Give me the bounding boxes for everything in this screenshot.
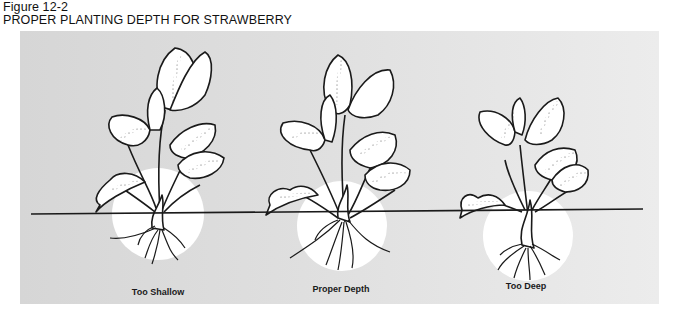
- caption-too-shallow: Too Shallow: [132, 287, 184, 297]
- caption-proper-depth: Proper Depth: [312, 284, 369, 294]
- plant-too-shallow: [96, 48, 224, 264]
- planting-depth-illustration: [0, 0, 681, 327]
- caption-too-deep: Too Deep: [506, 281, 546, 291]
